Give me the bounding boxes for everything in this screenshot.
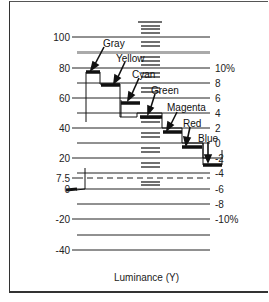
svg-text:-2: -2 <box>215 153 224 164</box>
svg-text:0: 0 <box>215 138 221 149</box>
svg-text:10%: 10% <box>215 63 235 74</box>
svg-text:-40: -40 <box>56 245 71 256</box>
svg-text:7.5: 7.5 <box>56 173 70 184</box>
svg-text:0: 0 <box>64 184 70 195</box>
luminance-diagram: Gray Yellow Cyan Green Magenta Red Blue … <box>0 0 269 302</box>
left-axis: 100 80 60 40 20 7.5 0 -20 -40 <box>53 32 70 256</box>
center-ladder <box>138 22 162 185</box>
svg-text:-8: -8 <box>215 199 224 210</box>
svg-text:-6: -6 <box>215 184 224 195</box>
label-gray: Gray <box>103 38 125 49</box>
svg-text:100: 100 <box>53 32 70 43</box>
svg-text:-10%: -10% <box>215 214 238 225</box>
svg-text:60: 60 <box>59 93 71 104</box>
svg-text:20: 20 <box>59 153 71 164</box>
label-cyan: Cyan <box>132 69 155 80</box>
svg-text:4: 4 <box>215 108 221 119</box>
label-green: Green <box>151 85 179 96</box>
svg-text:-4: -4 <box>215 168 224 179</box>
label-yellow: Yellow <box>116 53 145 64</box>
svg-text:8: 8 <box>215 78 221 89</box>
svg-text:40: 40 <box>59 123 71 134</box>
label-red: Red <box>183 118 201 129</box>
svg-text:2: 2 <box>215 123 221 134</box>
svg-text:6: 6 <box>215 93 221 104</box>
x-axis-label: Luminance (Y) <box>114 272 179 283</box>
label-magenta: Magenta <box>167 102 206 113</box>
svg-text:80: 80 <box>59 63 71 74</box>
right-axis: 10% 8 6 4 2 0 -2 -4 -6 -8 -10% <box>215 63 238 225</box>
svg-text:-20: -20 <box>56 214 71 225</box>
